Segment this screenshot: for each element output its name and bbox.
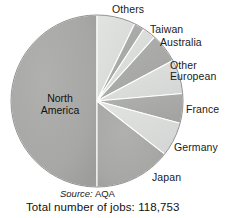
pie-label-north-america-line1: North xyxy=(47,92,73,104)
source-value: AQA xyxy=(95,188,115,199)
chart-caption: Total number of jobs: 118,753 xyxy=(26,201,180,213)
pie-label-japan: Japan xyxy=(152,172,181,184)
pie-label-france: France xyxy=(186,104,219,116)
pie-label-australia: Australia xyxy=(160,37,202,49)
pie-label-germany: Germany xyxy=(174,142,218,154)
pie-label-others: Others xyxy=(112,4,144,16)
pie-label-north-america-line2: America xyxy=(41,104,80,116)
source-prefix: Source: xyxy=(60,188,93,199)
pie-label-north-america: North America xyxy=(26,92,94,116)
pie-chart-figure: Others Taiwan Australia Other European F… xyxy=(0,0,237,218)
pie-label-other-european-line2: European xyxy=(170,71,216,83)
source-note: Source: AQA xyxy=(60,188,115,199)
pie-label-taiwan: Taiwan xyxy=(150,24,183,36)
